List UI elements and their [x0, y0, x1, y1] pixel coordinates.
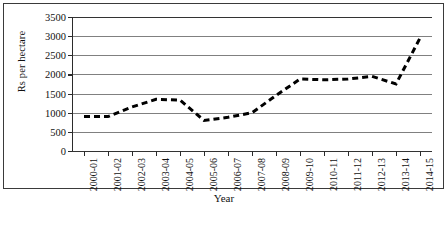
plot-area: 05001000150020002500300035002000-012001-…	[72, 17, 432, 151]
x-tick-mark	[156, 151, 157, 156]
x-tick-mark	[132, 151, 133, 156]
x-tick-label: 2000-01	[88, 158, 99, 191]
x-tick-label: 2013-14	[400, 158, 411, 191]
x-tick-label: 2001-02	[112, 158, 123, 191]
y-tick-label: 2000	[45, 69, 66, 80]
chart-frame: Rs per hectare 0500100015002000250030003…	[3, 3, 444, 189]
y-axis-title: Rs per hectare	[16, 7, 27, 117]
x-tick-label: 2010-11	[328, 158, 339, 191]
y-tick-label: 1000	[45, 107, 66, 118]
x-tick-mark	[84, 151, 85, 156]
data-series-line	[72, 17, 432, 151]
x-tick-label: 2014-15	[424, 158, 435, 191]
x-tick-label: 2009-10	[304, 158, 315, 191]
y-tick-mark-0	[68, 151, 72, 152]
x-tick-label: 2011-12	[352, 158, 363, 191]
y-tick-label: 2500	[45, 50, 66, 61]
x-tick-mark	[372, 151, 373, 156]
x-tick-mark	[228, 151, 229, 156]
x-tick-label: 2004-05	[184, 158, 195, 191]
y-tick-label: 0	[61, 146, 66, 157]
x-tick-label: 2005-06	[208, 158, 219, 191]
y-tick-label: 500	[50, 126, 66, 137]
x-tick-mark	[108, 151, 109, 156]
x-axis-title: Year	[0, 192, 448, 204]
x-tick-mark	[180, 151, 181, 156]
x-tick-mark	[396, 151, 397, 156]
x-tick-mark	[348, 151, 349, 156]
x-tick-label: 2003-04	[160, 158, 171, 191]
x-tick-label: 2006-07	[232, 158, 243, 191]
x-tick-label: 2012-13	[376, 158, 387, 191]
y-tick-label: 1500	[45, 88, 66, 99]
x-tick-mark	[324, 151, 325, 156]
y-tick-label: 3500	[45, 12, 66, 23]
x-tick-label: 2008-09	[280, 158, 291, 191]
series-polyline	[84, 38, 420, 120]
x-tick-mark	[204, 151, 205, 156]
x-tick-mark	[276, 151, 277, 156]
x-tick-mark	[420, 151, 421, 156]
x-tick-label: 2002-03	[136, 158, 147, 191]
x-tick-mark	[252, 151, 253, 156]
chart-figure: Rs per hectare 0500100015002000250030003…	[0, 0, 448, 226]
x-tick-label: 2007-08	[256, 158, 267, 191]
y-tick-label: 3000	[45, 31, 66, 42]
x-tick-mark	[300, 151, 301, 156]
